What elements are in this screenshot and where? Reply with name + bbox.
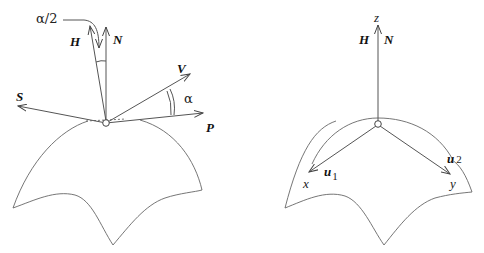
label-P: P bbox=[206, 120, 215, 135]
surface-arc-right bbox=[312, 118, 453, 164]
label-u1-sub: 1 bbox=[332, 170, 338, 182]
label-u1-base: u bbox=[324, 164, 331, 179]
diagram-canvas: α/2 H N S V α P z H N u1 x u2 y bbox=[0, 0, 484, 253]
label-u2: u2 bbox=[447, 151, 462, 166]
half-angle-leader bbox=[63, 20, 99, 48]
label-alpha-half: α/2 bbox=[36, 11, 57, 26]
label-H-right: H bbox=[358, 32, 370, 47]
label-alpha: α bbox=[184, 91, 193, 106]
label-u2-sub: 2 bbox=[456, 153, 462, 165]
surface-point-right bbox=[375, 121, 382, 128]
right-diagram: z H N u1 x u2 y bbox=[285, 10, 472, 245]
label-y: y bbox=[448, 176, 456, 191]
label-S: S bbox=[16, 89, 23, 104]
label-H: H bbox=[69, 34, 81, 49]
surface-patch-right bbox=[285, 121, 472, 245]
tangent-vector-u2 bbox=[380, 126, 450, 174]
light-vector-S bbox=[18, 106, 106, 123]
half-angle-arc bbox=[96, 61, 106, 62]
tangent-vector-u1 bbox=[309, 126, 376, 172]
surface-patch-left bbox=[13, 120, 202, 245]
label-N: N bbox=[112, 32, 123, 47]
alpha-arc-inner bbox=[167, 91, 171, 115]
left-diagram: α/2 H N S V α P bbox=[13, 11, 215, 245]
label-u1: u1 bbox=[324, 164, 338, 182]
surface-point-left bbox=[103, 120, 110, 127]
label-u2-base: u bbox=[447, 151, 454, 166]
halfway-vector-H bbox=[90, 26, 106, 121]
label-x: x bbox=[302, 176, 309, 191]
label-N-right: N bbox=[383, 32, 394, 47]
label-V: V bbox=[177, 61, 187, 76]
label-z: z bbox=[373, 10, 379, 25]
